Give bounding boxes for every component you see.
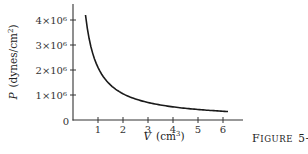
y-tick-label: 3×10⁶ bbox=[36, 40, 67, 51]
y-ticks: 1×10⁶2×10⁶3×10⁶4×10⁶ bbox=[36, 15, 76, 101]
x-tick-label: 1 bbox=[95, 124, 101, 135]
x-tick-label: 5 bbox=[195, 124, 201, 135]
y-axis-label: P(dynes/cm2) bbox=[7, 24, 19, 100]
y-tick-label: 1×10⁶ bbox=[36, 90, 67, 101]
x-tick-label: 2 bbox=[120, 124, 126, 135]
axes bbox=[73, 4, 244, 121]
y-tick-label: 4×10⁶ bbox=[36, 15, 67, 26]
x-axis-label: V(cm3) bbox=[143, 130, 184, 142]
origin-label: 0 bbox=[63, 116, 69, 127]
figure-caption: FIGURE5-7 bbox=[252, 132, 308, 145]
x-tick-label: 6 bbox=[220, 124, 226, 135]
y-tick-label: 2×10⁶ bbox=[36, 65, 67, 76]
pv-chart: 123456 1×10⁶2×10⁶3×10⁶4×10⁶ 0 V(cm3) P(d… bbox=[0, 0, 308, 154]
pressure-volume-curve bbox=[86, 15, 229, 112]
